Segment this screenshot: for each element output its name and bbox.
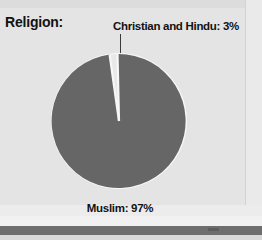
pie-slice-label-minor: Christian and Hindu: 3% (113, 20, 239, 32)
panel-top-band (0, 0, 262, 8)
infographic-panel: Religion: Christian and Hindu: 3% Muslim… (0, 0, 262, 240)
panel-lower-band-highlight (0, 216, 262, 226)
panel-right-strip (246, 0, 262, 226)
pie-chart (50, 52, 188, 190)
page-title: Religion: (5, 14, 63, 30)
pie-slice-divider-end (118, 54, 120, 121)
pie-slice-label-major: Muslim: 97% (0, 202, 240, 214)
footer-bar-notch (208, 228, 219, 231)
footer-bar (0, 226, 262, 235)
footer-bar-shadow (0, 235, 262, 240)
panel-right-edge (245, 0, 246, 226)
pie-chart-svg (50, 52, 188, 190)
